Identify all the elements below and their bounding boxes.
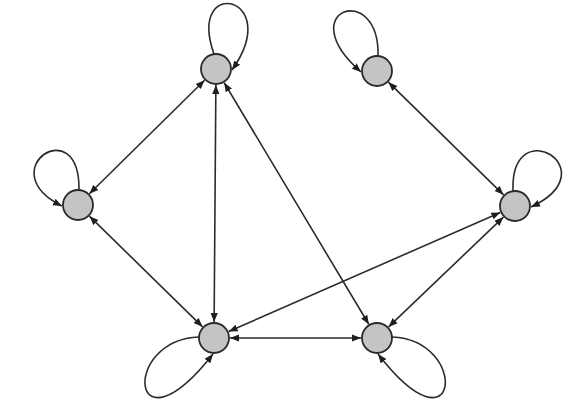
edge-n5-n4 (229, 212, 501, 331)
node-n6 (362, 323, 392, 353)
edge-n2-n4 (388, 82, 503, 195)
node-n1 (201, 54, 231, 84)
graph-canvas (0, 0, 585, 416)
node-n4 (500, 191, 530, 221)
node-n2 (362, 56, 392, 86)
edge-n1-n3 (89, 80, 204, 194)
node-n3 (63, 190, 93, 220)
edge-n3-n5 (89, 216, 202, 327)
edges (89, 80, 503, 338)
node-n5 (199, 323, 229, 353)
edge-n1-n6 (224, 83, 369, 325)
edge-n1-n5 (214, 85, 216, 322)
edge-n4-n6 (389, 217, 504, 327)
